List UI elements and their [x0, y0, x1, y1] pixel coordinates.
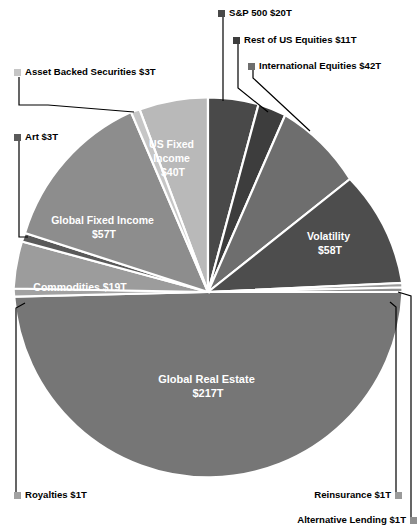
sp-500-swatch-icon [218, 10, 225, 17]
callout-text: Asset Backed Securities $3T [25, 66, 156, 78]
alternative-lending-swatch-icon [410, 517, 417, 524]
callout-text: Alternative Lending $1T [297, 514, 406, 526]
callout-rest-of-us-equities[interactable]: Rest of US Equities $11T [233, 34, 357, 46]
rest-of-us-equities-swatch-icon [233, 37, 240, 44]
reinsurance-swatch-icon [395, 492, 402, 499]
callout-text: S&P 500 $20T [229, 7, 292, 19]
callout-sp-500[interactable]: S&P 500 $20T [218, 7, 292, 19]
callout-reinsurance[interactable]: Reinsurance $1T [314, 489, 402, 501]
international-equities-swatch-icon [248, 63, 255, 70]
callout-royalties[interactable]: Royalties $1T [14, 489, 87, 501]
callout-asset-backed-securities[interactable]: Asset Backed Securities $3T [14, 66, 156, 78]
leader-alternative-lending [398, 292, 411, 521]
leader-asset-backed-securities [19, 77, 134, 112]
callout-art[interactable]: Art $3T [14, 131, 58, 143]
callout-alternative-lending[interactable]: Alternative Lending $1T [297, 514, 417, 526]
asset-backed-securities-swatch-icon [14, 69, 21, 76]
label-commodities: Commodities $19T [33, 281, 127, 293]
callout-text: Royalties $1T [25, 489, 87, 501]
callout-text: International Equities $42T [259, 60, 381, 72]
callout-international-equities[interactable]: International Equities $42T [248, 60, 381, 72]
art-swatch-icon [14, 134, 21, 141]
leader-art [19, 139, 28, 237]
callout-text: Rest of US Equities $11T [244, 34, 357, 46]
pie-chart: US Fixed Income $40T Volatility $58T Glo… [0, 0, 420, 531]
royalties-swatch-icon [14, 492, 21, 499]
callout-text: Reinsurance $1T [314, 489, 391, 501]
pie-chart-svg: US Fixed Income $40T Volatility $58T Glo… [0, 0, 420, 531]
callout-text: Art $3T [25, 131, 58, 143]
